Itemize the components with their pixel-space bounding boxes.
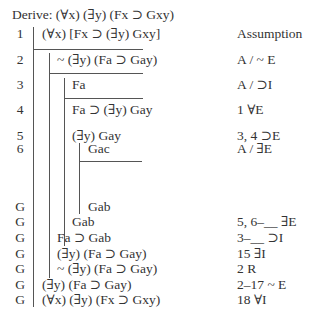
formula: Fa	[72, 77, 86, 93]
formula: Gab	[72, 214, 95, 230]
justification: 3–__ ⊃I	[237, 230, 283, 246]
line-number: G	[12, 246, 28, 262]
scope-line-2	[49, 53, 50, 278]
line-number: 2	[12, 52, 28, 68]
formula: Fa ⊃ (∃y) Gay	[72, 102, 153, 118]
formula: (∃y) (Fa ⊃ Gay)	[42, 277, 131, 293]
justification: 15 ∃I	[237, 246, 266, 262]
assumption-line-4	[79, 161, 142, 162]
line-number: 6	[12, 141, 28, 157]
justification: Assumption	[237, 26, 302, 42]
formula: ~ (∃y) (Fa ⊃ Gay)	[57, 261, 157, 277]
justification: A / ∃E	[237, 141, 272, 157]
justification: 1 ∀E	[237, 102, 264, 118]
line-number: G	[12, 261, 28, 277]
formula: (∃y) (Fa ⊃ Gay)	[57, 246, 146, 262]
formula: (∀x) [Fx ⊃ (∃y) Gxy]	[42, 26, 160, 42]
justification: 18 ∀I	[237, 292, 267, 308]
scope-line-1	[33, 27, 34, 307]
line-number: 4	[12, 102, 28, 118]
assumption-line-3	[64, 98, 143, 99]
line-number: 3	[12, 77, 28, 93]
formula: Gac	[88, 141, 110, 157]
scope-line-3	[64, 78, 65, 246]
justification: A / ⊃I	[237, 77, 272, 93]
line-number: G	[12, 230, 28, 246]
justification: A / ~ E	[237, 52, 275, 68]
justification: 2–17 ~ E	[237, 277, 286, 293]
justification: 2 R	[237, 261, 256, 277]
formula: (∀x) (∃y) (Fx ⊃ Gxy)	[42, 292, 160, 308]
line-number: G	[12, 277, 28, 293]
assumption-line-2	[49, 73, 143, 74]
assumption-line-1	[33, 49, 143, 50]
scope-line-4	[79, 143, 80, 214]
line-number: G	[12, 292, 28, 308]
derive-goal: Derive: (∀x) (∃y) (Fx ⊃ Gxy)	[12, 7, 174, 23]
line-number: G	[12, 199, 28, 215]
formula: ~ (∃y) (Fa ⊃ Gay)	[57, 52, 157, 68]
formula: Gab	[88, 199, 111, 215]
line-number: 1	[12, 26, 28, 42]
justification: 5, 6–__ ∃E	[237, 214, 296, 230]
line-number: G	[12, 214, 28, 230]
formula: Fa ⊃ Gab	[57, 230, 111, 246]
